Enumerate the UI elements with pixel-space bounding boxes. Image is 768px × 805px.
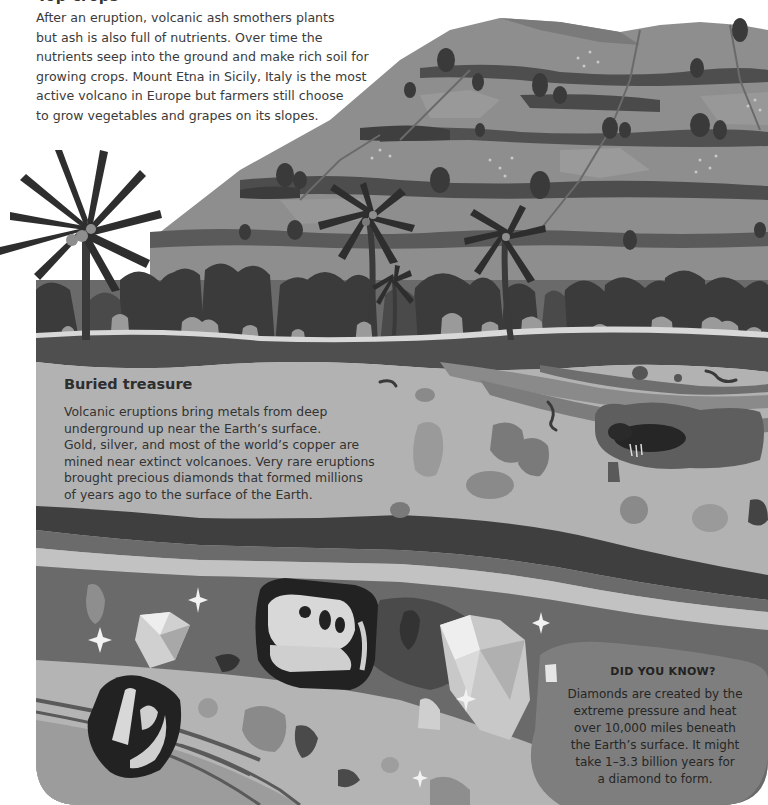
paragraph-line: After an eruption, volcanic ash smothers… xyxy=(36,8,396,28)
paragraph-line: mined near extinct volcanoes. Very rare … xyxy=(64,454,424,471)
paragraph-line: active volcano in Europe but farmers sti… xyxy=(36,86,396,106)
paragraph-line: the Earth’s surface. It might xyxy=(546,737,764,754)
paragraph-line: over 10,000 miles beneath xyxy=(546,720,764,737)
did-you-know-paragraph: Diamonds are created by the extreme pres… xyxy=(546,686,764,788)
paragraph-line: but ash is also full of nutrients. Over … xyxy=(36,28,396,48)
paragraph-line: a diamond to form. xyxy=(546,771,764,788)
paragraph-line: brought precious diamonds that formed mi… xyxy=(64,470,424,487)
paragraph-line: growing crops. Mount Etna in Sicily, Ita… xyxy=(36,67,396,87)
dinosaur-skull-fossil xyxy=(255,578,378,690)
paragraph-line: take 1–3.3 billion years for xyxy=(546,754,764,771)
buried-treasure-paragraph: Volcanic eruptions bring metals from dee… xyxy=(64,404,424,504)
section-title-top-crops: Top crops xyxy=(37,0,119,5)
paragraph-line: Diamonds are created by the xyxy=(546,686,764,703)
did-you-know-heading: DID YOU KNOW? xyxy=(560,665,766,678)
paragraph-line: of years ago to the surface of the Earth… xyxy=(64,487,424,504)
paragraph-line: extreme pressure and heat xyxy=(546,703,764,720)
section-title-buried-treasure: Buried treasure xyxy=(64,376,192,392)
paragraph-line: to grow vegetables and grapes on its slo… xyxy=(36,106,396,126)
paragraph-line: Gold, silver, and most of the world’s co… xyxy=(64,437,424,454)
paragraph-line: nutrients seep into the ground and make … xyxy=(36,47,396,67)
mole-in-burrow xyxy=(595,402,764,469)
paragraph-line: underground up near the Earth’s surface. xyxy=(64,421,424,438)
top-crops-paragraph: After an eruption, volcanic ash smothers… xyxy=(36,8,396,125)
paragraph-line: Volcanic eruptions bring metals from dee… xyxy=(64,404,424,421)
